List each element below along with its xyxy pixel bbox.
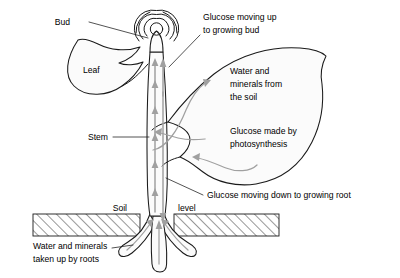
label-soil: Soil [113,203,127,213]
label-glucose-down: Glucose moving down to growing root [207,190,351,200]
label-glucose-up-line1: Glucose moving up [203,12,277,22]
label-glucose-made-line2: photosynthesis [230,139,287,149]
label-glucose-made-line1: Glucose made by [230,126,298,136]
plant-transport-diagram: Bud Leaf Stem Glucose moving up to growi… [0,0,400,278]
label-water-minerals-line1: Water and [230,66,270,76]
label-roots-line2: taken up by roots [33,254,99,264]
label-roots-line1: Water and minerals [33,241,107,251]
soil-hatch-right [174,214,279,236]
label-bud: Bud [55,17,71,27]
soil-hatch-left [33,214,140,236]
label-water-minerals-line3: the soil [230,92,257,102]
label-level: level [178,203,196,213]
diagram-canvas: Bud Leaf Stem Glucose moving up to growi… [0,0,400,278]
label-glucose-up-line2: to growing bud [203,25,260,35]
label-water-minerals-line2: minerals from [230,79,282,89]
label-stem: Stem [88,132,108,142]
label-leaf: Leaf [83,65,100,75]
